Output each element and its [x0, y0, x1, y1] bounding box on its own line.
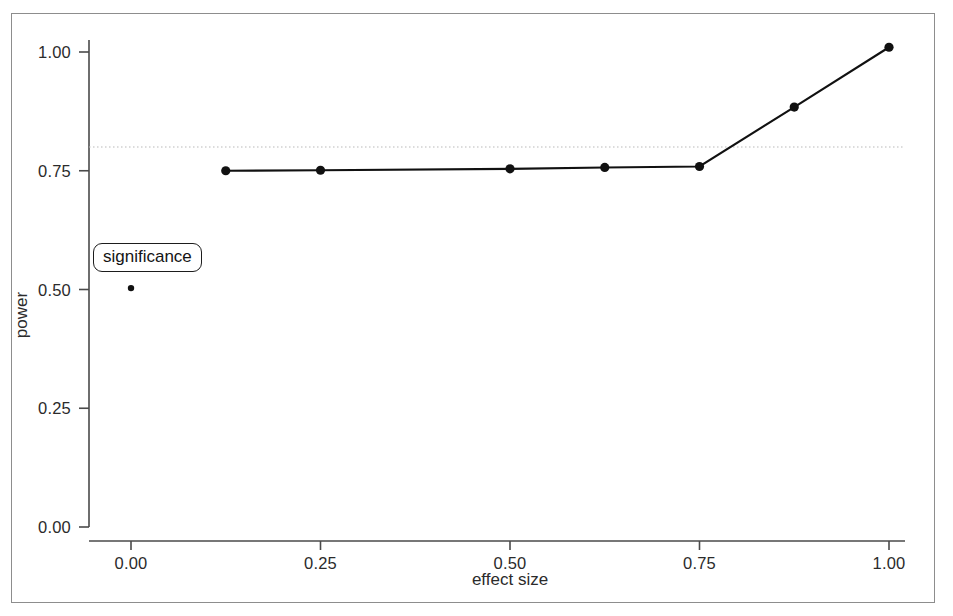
y-axis-title: power [12, 292, 32, 338]
x-tick-label: 0.25 [304, 554, 337, 573]
significance-callout: significance [93, 243, 202, 272]
data-point-marker [790, 103, 799, 112]
x-tick-label: 1.00 [873, 554, 906, 573]
data-point-marker [505, 164, 514, 173]
data-point-marker [316, 166, 325, 175]
y-tick-label: 0.00 [28, 518, 71, 537]
plot-canvas [0, 0, 953, 616]
y-tick-label: 0.75 [28, 161, 71, 180]
y-tick-label: 0.50 [28, 280, 71, 299]
y-tick-label: 0.25 [28, 399, 71, 418]
data-point-marker [221, 166, 230, 175]
data-series-group [128, 43, 894, 292]
x-axis-title: effect size [472, 570, 548, 590]
data-point-marker [600, 163, 609, 172]
data-point-marker [884, 43, 893, 52]
series-line [226, 47, 889, 171]
data-point-marker [128, 285, 134, 291]
y-tick-label: 1.00 [28, 43, 71, 62]
x-tick-label: 0.75 [683, 554, 716, 573]
data-point-marker [695, 162, 704, 171]
x-tick-label: 0.00 [115, 554, 148, 573]
